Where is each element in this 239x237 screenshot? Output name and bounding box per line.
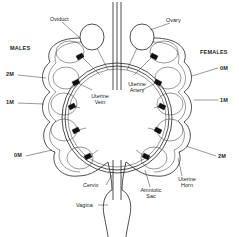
label-uterine-horn: Uterine Horn xyxy=(174,177,200,188)
uterus-diagram: Oviduct Ovary MALES FEMALES 2M 1M 0M 0M … xyxy=(0,0,239,237)
diagram-drawing xyxy=(0,0,239,237)
label-uterine-vein: Uterine Vein xyxy=(88,94,112,105)
right-position-label: 2M xyxy=(218,154,226,160)
left-position-label: 2M xyxy=(6,72,14,78)
left-uterine-horn xyxy=(43,38,109,176)
left-position-label: 0M xyxy=(14,153,22,159)
label-females: FEMALES xyxy=(200,50,228,56)
label-oviduct: Oviduct xyxy=(50,17,69,23)
label-uterine-horn-line2: Horn xyxy=(174,183,200,189)
label-vagina: Vagina xyxy=(76,203,93,209)
right-uterine-horn xyxy=(126,38,192,176)
label-uterine-vein-line2: Vein xyxy=(88,100,112,106)
left-position-label: 1M xyxy=(6,100,14,106)
label-cervix: Cervix xyxy=(83,183,99,189)
right-position-label: 0M xyxy=(220,66,228,72)
right-position-label: 1M xyxy=(220,98,228,104)
label-males: MALES xyxy=(10,46,30,52)
label-uterine-artery: Uterine Artery xyxy=(124,82,150,93)
label-amniotic-sac: Amniotic Sac xyxy=(137,188,165,199)
label-ovary: Ovary xyxy=(166,18,181,24)
label-uterine-artery-line2: Artery xyxy=(124,88,150,94)
label-amniotic-sac-line2: Sac xyxy=(137,194,165,200)
